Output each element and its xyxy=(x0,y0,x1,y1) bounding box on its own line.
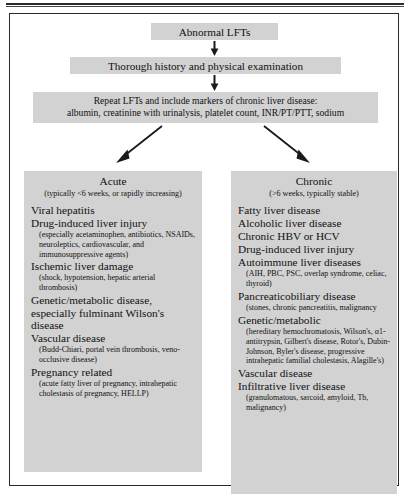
list-item-detail: (Budd-Chiari, portal vein thrombosis, ve… xyxy=(31,345,195,365)
list-item: Vascular disease xyxy=(31,332,195,345)
panel-chronic-title: Chronic xyxy=(238,175,390,188)
arrow-diagonal-to-chronic xyxy=(262,124,316,166)
page-top-rule-secondary xyxy=(6,6,404,7)
list-item: Viral hepatitis xyxy=(31,204,195,217)
panel-acute-subtitle: (typically <6 weeks, or rapidly increasi… xyxy=(31,189,195,199)
list-item: Chronic HBV or HCV xyxy=(238,230,390,243)
repeat-lfts-line-2: albumin, creatinine with urinalysis, pla… xyxy=(33,107,378,119)
list-item: Genetic/metabolic disease, especially fu… xyxy=(31,294,195,332)
panel-acute: Acute (typically <6 weeks, or rapidly in… xyxy=(24,171,202,472)
list-item: Infiltrative liver disease xyxy=(238,380,390,393)
arrow-down-2 xyxy=(210,75,219,91)
list-item: Pregnancy related xyxy=(31,366,195,379)
panel-chronic: Chronic (>6 weeks, typically stable) Fat… xyxy=(231,171,397,494)
repeat-lfts-line-1: Repeat LFTs and include markers of chron… xyxy=(33,95,378,107)
list-item: Vascular disease xyxy=(238,367,390,380)
list-item: Autoimmune liver diseases xyxy=(238,256,390,269)
list-item: Drug-induced liver injury xyxy=(238,243,390,256)
list-item: Drug-induced liver injury xyxy=(31,217,195,230)
list-item: Fatty liver disease xyxy=(238,204,390,217)
list-item: Genetic/metabolic xyxy=(238,314,390,327)
panel-chronic-subtitle: (>6 weeks, typically stable) xyxy=(238,189,390,199)
list-item-detail: (AIH, PBC, PSC, overlap syndrome, celiac… xyxy=(238,269,390,289)
list-item-detail: (hereditary hemochromatosis, Wilson's, α… xyxy=(238,327,390,366)
list-item: Alcoholic liver disease xyxy=(238,217,390,230)
list-item-detail: (granulomatous, sarcoid, amyloid, Tb, ma… xyxy=(238,393,390,413)
list-item: Pancreaticobiliary disease xyxy=(238,290,390,303)
list-item: Ischemic liver damage xyxy=(31,260,195,273)
arrow-diagonal-to-acute xyxy=(110,124,164,166)
list-item-detail: (stones, chronic pancreatitis, malignanc… xyxy=(238,303,390,313)
list-item-detail: (especially acetaminophen, antibiotics, … xyxy=(31,230,195,259)
page-top-rule xyxy=(6,3,404,5)
arrow-down-1 xyxy=(210,41,219,56)
list-item-detail: (shock, hypotension, hepatic arterial th… xyxy=(31,273,195,293)
flow-node-abnormal-lfts: Abnormal LFTs xyxy=(151,23,278,40)
flow-node-repeat-lfts: Repeat LFTs and include markers of chron… xyxy=(33,92,378,123)
flow-node-history-physical: Thorough history and physical examinatio… xyxy=(70,57,341,74)
panel-acute-title: Acute xyxy=(31,175,195,188)
list-item-detail: (acute fatty liver of pregnancy, intrahe… xyxy=(31,379,195,399)
figure-frame: Abnormal LFTs Thorough history and physi… xyxy=(9,13,399,486)
